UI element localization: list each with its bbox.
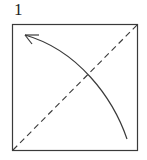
origami-diagram: [0, 0, 147, 160]
